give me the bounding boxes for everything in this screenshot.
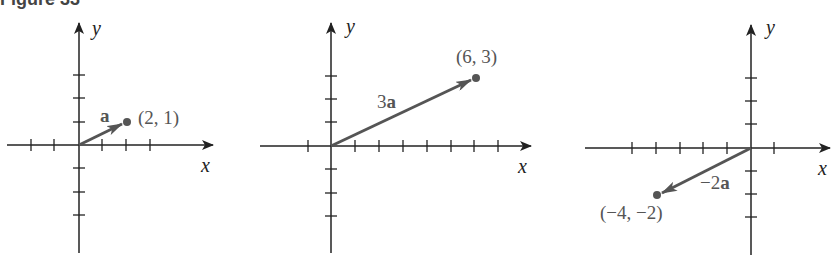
x-axis-label: x (200, 154, 210, 176)
y-axis (325, 23, 337, 253)
panel-vector-neg2a: y x −2a (−4, −2) (585, 16, 830, 255)
y-axis-label: y (344, 15, 355, 38)
vector-scaling-figure: Figure 33 y x (0, 0, 833, 265)
point-label: (−4, −2) (600, 202, 663, 224)
x-axis (260, 140, 531, 152)
point-marker (653, 191, 661, 199)
point-label: (2, 1) (138, 107, 179, 129)
figure-caption: Figure 33 (0, 0, 80, 9)
vector-label: 3a (377, 91, 397, 112)
vector-label: a (100, 105, 110, 126)
x-axis-label: x (817, 157, 827, 179)
y-axis-label: y (764, 16, 775, 39)
x-axis (585, 142, 830, 154)
point-label: (6, 3) (456, 46, 497, 68)
x-axis (7, 139, 213, 151)
point-marker (472, 74, 480, 82)
vector-label: −2a (700, 172, 730, 193)
y-axis (73, 23, 85, 253)
vector-arrow (79, 124, 122, 145)
point-marker (123, 118, 131, 126)
y-axis-label: y (90, 17, 101, 40)
panel-vector-3a: y x 3a (6, 3) (260, 15, 531, 253)
x-axis-label: x (517, 155, 527, 177)
vector-arrow (331, 80, 471, 146)
y-axis (745, 25, 757, 255)
panel-vector-a: y x a (2, 1) (7, 17, 213, 253)
